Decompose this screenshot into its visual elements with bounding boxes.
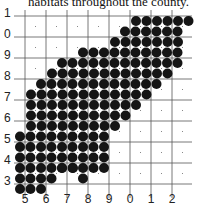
y-axis-label: 9 xyxy=(4,48,11,62)
cell-centre-mark xyxy=(182,152,183,153)
record-dot xyxy=(131,48,141,58)
cell-centre-mark xyxy=(119,131,120,132)
record-dot xyxy=(26,153,36,163)
record-dot xyxy=(68,111,78,121)
cell-centre-mark xyxy=(182,47,183,48)
record-dot xyxy=(68,153,78,163)
cell-centre-mark xyxy=(35,152,36,153)
record-dot xyxy=(162,48,172,58)
record-dot xyxy=(173,16,183,26)
record-dot xyxy=(110,100,120,110)
record-dots xyxy=(15,16,194,194)
record-dot xyxy=(89,121,99,131)
record-dot xyxy=(37,111,47,121)
cell-centre-mark xyxy=(56,131,57,132)
record-dot xyxy=(100,111,110,121)
record-dot xyxy=(36,153,46,163)
record-dot xyxy=(47,163,57,173)
county-dot-map: 109876543 56789012 xyxy=(0,0,200,209)
record-dot xyxy=(47,153,57,163)
record-dot xyxy=(131,69,141,79)
record-dot xyxy=(78,163,88,173)
cell-centre-mark xyxy=(161,47,162,48)
record-dot xyxy=(163,37,173,47)
record-dot xyxy=(99,163,109,173)
record-dot xyxy=(57,79,67,89)
record-dot xyxy=(89,58,99,68)
y-axis-label: 4 xyxy=(4,153,11,167)
record-dot xyxy=(141,48,151,58)
cell-centre-mark xyxy=(182,131,183,132)
record-dot xyxy=(99,58,109,68)
y-axis-label: 3 xyxy=(4,174,11,188)
cell-centre-mark xyxy=(119,173,120,174)
record-dot xyxy=(131,16,141,26)
record-dot xyxy=(152,69,162,79)
record-dot xyxy=(110,58,120,68)
record-dot xyxy=(141,58,151,68)
cell-centre-mark xyxy=(56,26,57,27)
record-dot xyxy=(68,121,78,131)
record-dot xyxy=(37,121,47,131)
record-dot xyxy=(163,16,173,26)
record-dot xyxy=(142,90,152,100)
x-axis-label: 6 xyxy=(43,192,50,206)
record-dot xyxy=(131,79,141,89)
cell-centre-mark xyxy=(77,89,78,90)
x-axis-labels: 56789012 xyxy=(22,192,176,206)
cell-centre-mark xyxy=(119,152,120,153)
cell-centre-mark xyxy=(77,173,78,174)
record-dot xyxy=(120,79,130,89)
record-dot xyxy=(152,79,162,89)
cell-centre-mark xyxy=(182,89,183,90)
record-dot xyxy=(78,174,88,184)
record-dot xyxy=(99,79,109,89)
record-dot xyxy=(110,69,120,79)
record-dot xyxy=(121,69,131,79)
record-dot xyxy=(26,142,36,152)
record-dot xyxy=(152,16,162,26)
record-dot xyxy=(142,16,152,26)
cell-centre-mark xyxy=(140,89,141,90)
record-dot xyxy=(15,174,25,184)
record-dot xyxy=(26,132,36,142)
cell-centre-mark xyxy=(77,26,78,27)
y-axis-label: 7 xyxy=(4,90,11,104)
record-dot xyxy=(58,100,68,110)
cell-centre-mark xyxy=(35,68,36,69)
record-dot xyxy=(37,100,47,110)
y-axis-label: 5 xyxy=(4,132,11,146)
cell-centre-mark xyxy=(119,89,120,90)
cell-centre-mark xyxy=(140,68,141,69)
record-dot xyxy=(173,27,183,37)
cell-centre-mark xyxy=(56,152,57,153)
record-dot xyxy=(141,27,151,37)
record-dot xyxy=(152,48,162,58)
record-dot xyxy=(121,90,131,100)
x-axis-label: 8 xyxy=(85,192,92,206)
cell-centre-mark xyxy=(56,173,57,174)
record-dot xyxy=(79,69,89,79)
record-dot xyxy=(57,132,67,142)
cell-centre-mark xyxy=(182,173,183,174)
record-dot xyxy=(57,58,67,68)
cell-centre-mark xyxy=(119,68,120,69)
record-dot xyxy=(36,163,46,173)
record-dot xyxy=(110,111,120,121)
record-dot xyxy=(120,27,130,37)
record-dot xyxy=(99,153,109,163)
record-dot xyxy=(89,132,99,142)
record-dot xyxy=(58,121,68,131)
cell-centre-mark xyxy=(56,68,57,69)
record-dot xyxy=(162,27,172,37)
record-dot xyxy=(26,174,36,184)
cell-centre-mark xyxy=(98,173,99,174)
cell-centre-mark xyxy=(161,110,162,111)
record-dot xyxy=(110,79,120,89)
record-dot xyxy=(99,142,109,152)
record-dot xyxy=(99,48,109,58)
record-dot xyxy=(79,90,89,100)
cell-centre-mark xyxy=(140,26,141,27)
record-dot xyxy=(47,132,57,142)
cell-centre-mark xyxy=(140,152,141,153)
